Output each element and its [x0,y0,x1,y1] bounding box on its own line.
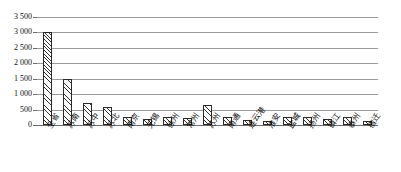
y-axis-tick-label: 2 000 [0,59,32,67]
plot-area [37,17,378,125]
y-axis-tick-label: 3 500 [0,13,32,21]
y-axis-tick-label: 2 500 [0,44,32,52]
y-axis-tick-label: 1 500 [0,75,32,83]
bar [43,32,52,125]
bar-series [37,17,378,125]
x-axis-category-labels: 全省苏南苏中苏北南京无锡徐州常州苏州南通连云港淮安盐城扬州镇江泰州宿迁 [37,125,378,172]
y-axis-tick-label: 3 000 [0,28,32,36]
bar-chart: 3 5003 0002 5002 0001 5001 0005000 全省苏南苏… [0,0,401,172]
y-axis-tick-label: 500 [0,106,32,114]
y-axis-tick-label: 0 [0,121,32,129]
y-axis-tick-label: 1 000 [0,90,32,98]
